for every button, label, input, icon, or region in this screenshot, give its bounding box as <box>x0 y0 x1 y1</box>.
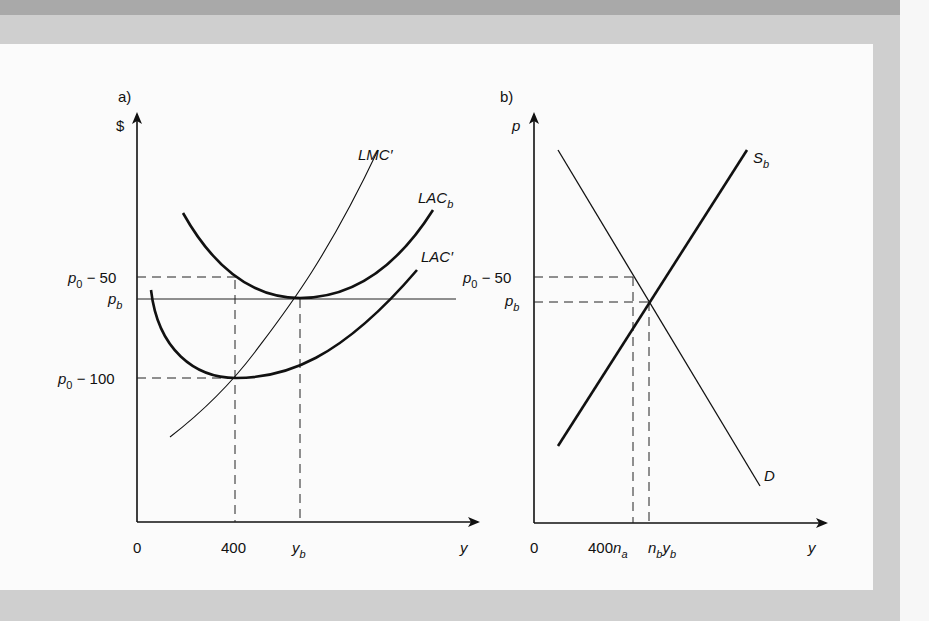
supply-curve <box>558 150 747 446</box>
tick-a-400: 400 <box>221 539 246 556</box>
tick-b-pb: pb <box>504 292 519 313</box>
demand-label: D <box>764 467 775 484</box>
demand-curve <box>558 150 760 486</box>
tick-b-p0-minus-50: p0 − 50 <box>462 269 511 290</box>
panel-a-label: a) <box>118 88 131 105</box>
lmc-label: LMC′ <box>358 146 394 163</box>
supply-label: Sb <box>753 149 769 170</box>
panel-a-x-axis-label: y <box>459 539 469 556</box>
tick-a-pb: pb <box>107 290 122 311</box>
lac-prime-label: LAC′ <box>421 248 454 265</box>
lac-b-curve <box>183 210 433 298</box>
panel-b: b) p y Sb D p0 − 50 pb 0 400na nbyb <box>462 88 826 560</box>
tick-a-zero: 0 <box>133 539 141 556</box>
tick-a-yb: yb <box>291 539 306 560</box>
tick-b-nb-yb: nbyb <box>648 539 676 560</box>
panel-a: a) $ y LMC′ LACb LAC′ p0 − 50 pb p0 − 10… <box>57 88 478 560</box>
tick-b-zero: 0 <box>530 539 538 556</box>
tick-b-na: 400na <box>588 539 628 560</box>
tick-a-p0-minus-50: p0 − 50 <box>67 269 116 290</box>
panel-a-y-axis-label: $ <box>116 117 125 134</box>
panel-b-x-axis-label: y <box>807 539 817 556</box>
economics-diagram: a) $ y LMC′ LACb LAC′ p0 − 50 pb p0 − 10… <box>0 0 929 621</box>
lac-b-label: LACb <box>418 189 453 210</box>
panel-b-y-axis-label: p <box>511 117 520 134</box>
panel-b-label: b) <box>500 88 513 105</box>
tick-a-p0-minus-100: p0 − 100 <box>57 370 115 391</box>
lac-prime-curve <box>151 270 417 378</box>
